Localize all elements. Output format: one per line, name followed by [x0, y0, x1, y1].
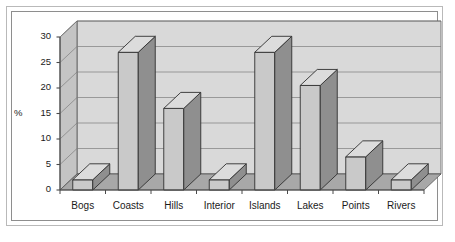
bar-front-face[interactable] — [73, 180, 93, 190]
bar-side-face[interactable] — [184, 92, 201, 190]
bar-front-face[interactable] — [164, 108, 184, 190]
bar-front-face[interactable] — [391, 180, 411, 190]
y-axis-tick-label: 30 — [29, 30, 51, 41]
y-axis-tick-label: 15 — [29, 107, 51, 118]
x-axis-category-label: Lakes — [288, 200, 334, 211]
x-axis-category-label: Islands — [242, 200, 288, 211]
bar-side-face[interactable] — [138, 36, 155, 190]
bar-side-face[interactable] — [275, 36, 292, 190]
x-axis-category-label: Rivers — [379, 200, 425, 211]
bar-front-face[interactable] — [118, 52, 138, 190]
x-axis-category-label: Hills — [151, 200, 197, 211]
y-axis-tick-label: 25 — [29, 56, 51, 67]
x-axis-category-label: Bogs — [60, 200, 106, 211]
y-axis-label: % — [14, 107, 22, 118]
y-axis-tick-label: 20 — [29, 81, 51, 92]
bar-side-face[interactable] — [320, 69, 337, 190]
y-axis-tick-label: 10 — [29, 132, 51, 143]
bar-front-face[interactable] — [300, 85, 320, 190]
bar-hills[interactable] — [164, 92, 201, 190]
x-axis-category-label: Coasts — [106, 200, 152, 211]
y-axis-tick-label: 0 — [29, 183, 51, 194]
bar-islands[interactable] — [255, 36, 292, 190]
y-axis-tick-label: 5 — [29, 158, 51, 169]
bar-front-face[interactable] — [209, 180, 229, 190]
bar-front-face[interactable] — [346, 157, 366, 190]
floor — [60, 174, 441, 190]
x-axis-category-label: Interior — [197, 200, 243, 211]
bar-front-face[interactable] — [255, 52, 275, 190]
floor-plane — [60, 174, 441, 190]
x-axis-category-label: Points — [333, 200, 379, 211]
bar-coasts[interactable] — [118, 36, 155, 190]
bar-lakes[interactable] — [300, 69, 337, 190]
bar-chart-3d: 051015202530%BogsCoastsHillsInteriorIsla… — [0, 0, 455, 242]
